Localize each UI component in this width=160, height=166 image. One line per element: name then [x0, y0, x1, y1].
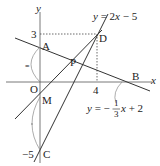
tick-label-3: 3 [31, 28, 37, 40]
tick-label-neg5: −5 [22, 148, 34, 160]
eq2-lhs: y = − [86, 102, 110, 114]
x-axis-label: x [150, 74, 156, 86]
point-label-C: C [43, 148, 50, 160]
coordinate-diagram: = y x O 3 4 −5 A B C D P M y = 2x − 5 y … [0, 0, 160, 166]
equal-mark-AO: = [25, 62, 30, 71]
point-label-B: B [132, 70, 139, 82]
point-label-D: D [99, 32, 107, 44]
point-label-M: M [42, 94, 52, 106]
eq1-tail: − 5 [120, 10, 138, 22]
y-axis-label: y [35, 2, 41, 14]
point-label-A: A [42, 40, 50, 52]
point-label-P: P [70, 56, 76, 68]
eq2-denominator: 3 [114, 109, 119, 119]
eq1-rest: = 2 [98, 10, 115, 22]
origin-label: O [30, 83, 38, 95]
equation-line-2x-minus-5: y = 2x − 5 [92, 10, 138, 22]
eq2-numerator: 1 [114, 98, 119, 108]
eq2-eq: = − [92, 102, 110, 114]
equation-line-neg-third-x-plus-2: y = − 1 3 x + 2 [86, 98, 143, 119]
eq2-tail: + 2 [126, 102, 143, 114]
tick-label-4: 4 [93, 84, 99, 96]
arc-MC [32, 97, 40, 150]
arc-AO [31, 47, 40, 82]
tick-mark-MC [31, 123, 33, 125]
eq2-rhs: x + 2 [120, 102, 143, 114]
